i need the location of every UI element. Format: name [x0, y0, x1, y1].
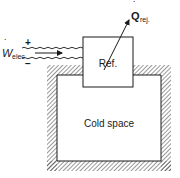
- heat-symbol: Q: [131, 10, 140, 22]
- work-subscript: elec: [12, 53, 25, 60]
- cold-space-label: Cold space: [84, 118, 134, 129]
- refrigerator-label: Ref.: [99, 58, 117, 69]
- plus-terminal-label: +: [25, 37, 31, 48]
- work-input-label: ˙ W elec: [2, 38, 25, 60]
- refrigerator-diagram: Cold space Ref. + − ˙ W elec ˙ Q rej.: [0, 0, 180, 178]
- heat-rejected-label: ˙ Q rej.: [131, 0, 150, 24]
- minus-terminal-label: −: [25, 58, 31, 69]
- heat-subscript: rej.: [140, 16, 150, 24]
